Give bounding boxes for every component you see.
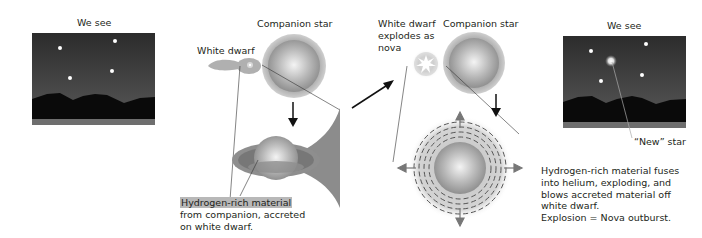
star-dot [599, 79, 603, 83]
star-dot [589, 49, 593, 53]
caption-line: blows accreted material off [541, 189, 679, 201]
stage1-companion-label: Companion star [257, 18, 332, 30]
pointer-line [393, 66, 407, 162]
pointer-line [230, 66, 240, 200]
star-dot [68, 76, 72, 80]
nova-shell [398, 112, 522, 226]
caption-line: into helium, exploding, and [541, 177, 679, 189]
star-dot [113, 39, 117, 43]
star-dot [640, 73, 644, 77]
stage1-caption: Hydrogen-rich material from companion, a… [180, 197, 305, 232]
star-dot [58, 46, 62, 50]
caption-line: Hydrogen-rich material fuses [541, 165, 679, 177]
label-line: White dwarf [378, 18, 436, 30]
right-sky-title: We see [607, 20, 641, 32]
down-arrow-icon [491, 94, 501, 117]
left-sky-panel [32, 33, 155, 125]
label-line: explodes as [378, 30, 436, 42]
right-sky-panel [563, 36, 686, 138]
new-star [605, 55, 617, 67]
star-dot [644, 42, 648, 46]
left-sky-title: We see [77, 17, 111, 29]
stage1-white-dwarf-label: White dwarf [197, 45, 255, 57]
down-arrow-icon [288, 102, 298, 127]
star-dot [110, 69, 114, 73]
stage2-white-dwarf-label: White dwarf explodes as nova [378, 18, 436, 53]
new-star-label: “New” star [634, 136, 686, 148]
label-line: nova [378, 42, 436, 54]
diagonal-arrow-icon [352, 80, 394, 108]
caption-highlight: Hydrogen-rich material [180, 197, 292, 208]
stage2-companion-label: Companion star [443, 18, 518, 30]
accretion-disk [232, 108, 340, 208]
caption-line: on white dwarf. [180, 221, 305, 233]
caption-line: from companion, accreted [180, 209, 305, 221]
caption-line: white dwarf. [541, 200, 679, 212]
caption-line: Explosion = Nova outburst. [541, 212, 679, 224]
stage2-caption: Hydrogen-rich material fuses into helium… [541, 165, 679, 224]
